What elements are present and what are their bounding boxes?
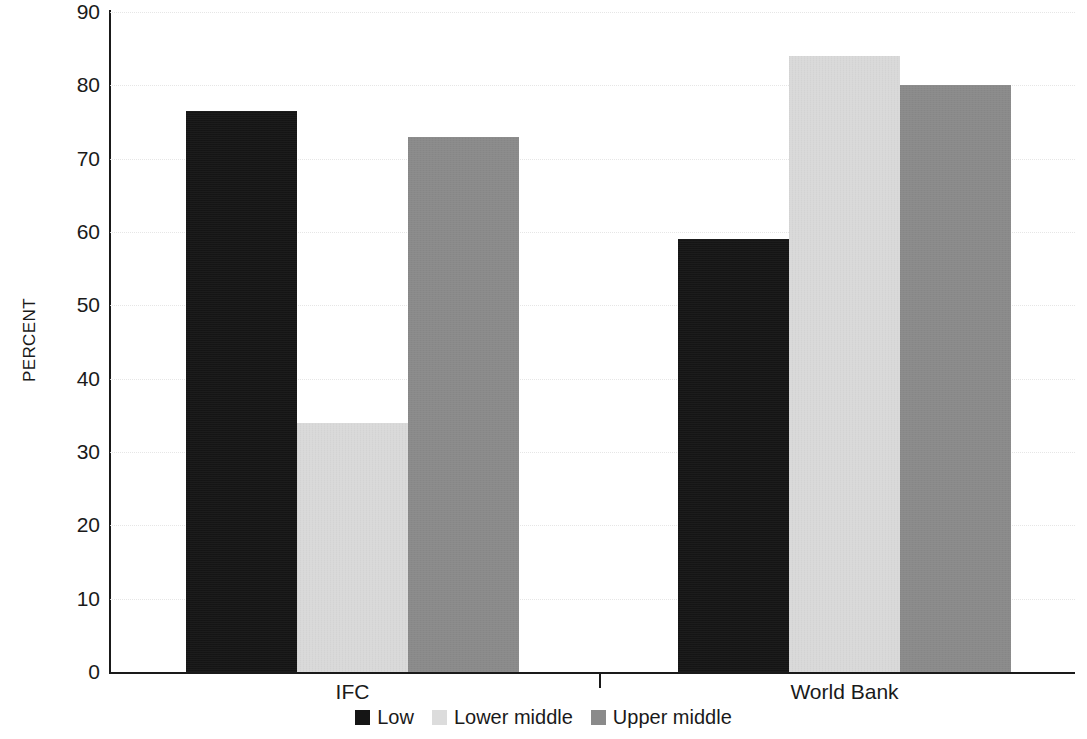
- bar-chart: PERCENT 0102030405060708090 IFCWorld Ban…: [0, 0, 1087, 739]
- legend-label: Lower middle: [454, 706, 573, 729]
- legend-label: Upper middle: [613, 706, 732, 729]
- y-axis-tick-labels: 0102030405060708090: [20, 0, 100, 739]
- y-axis-tick-label: 40: [30, 367, 100, 391]
- y-axis-tick-label: 20: [30, 513, 100, 537]
- legend-swatch-icon: [355, 710, 370, 725]
- legend-swatch-icon: [591, 710, 606, 725]
- y-axis-tick-label: 70: [30, 147, 100, 171]
- x-axis-label-ifc: IFC: [336, 680, 370, 704]
- y-axis-tick-label: 90: [30, 0, 100, 24]
- legend-label: Low: [377, 706, 414, 729]
- legend-item-low: Low: [355, 706, 414, 729]
- y-axis-tick-label: 80: [30, 73, 100, 97]
- y-axis-tick-label: 60: [30, 220, 100, 244]
- legend-item-upper-middle: Upper middle: [591, 706, 732, 729]
- y-axis-tick-label: 50: [30, 293, 100, 317]
- x-axis-line: [109, 672, 1075, 674]
- bar-world-bank-lower-middle: [789, 56, 900, 672]
- bar-ifc-low: [186, 111, 297, 672]
- group-separator-tick: [599, 674, 601, 688]
- legend-item-lower-middle: Lower middle: [432, 706, 573, 729]
- plot-area: [110, 12, 1075, 672]
- bar-ifc-lower-middle: [297, 423, 408, 672]
- bar-world-bank-low: [678, 239, 789, 672]
- bar-ifc-upper-middle: [408, 137, 519, 672]
- gridline: [110, 12, 1075, 14]
- bar-world-bank-upper-middle: [900, 85, 1011, 672]
- y-axis-tick-label: 30: [30, 440, 100, 464]
- y-axis-tick-label: 10: [30, 587, 100, 611]
- legend-swatch-icon: [432, 710, 447, 725]
- x-axis-label-world-bank: World Bank: [790, 680, 898, 704]
- chart-legend: LowLower middleUpper middle: [0, 706, 1087, 729]
- y-axis-tick-label: 0: [30, 660, 100, 684]
